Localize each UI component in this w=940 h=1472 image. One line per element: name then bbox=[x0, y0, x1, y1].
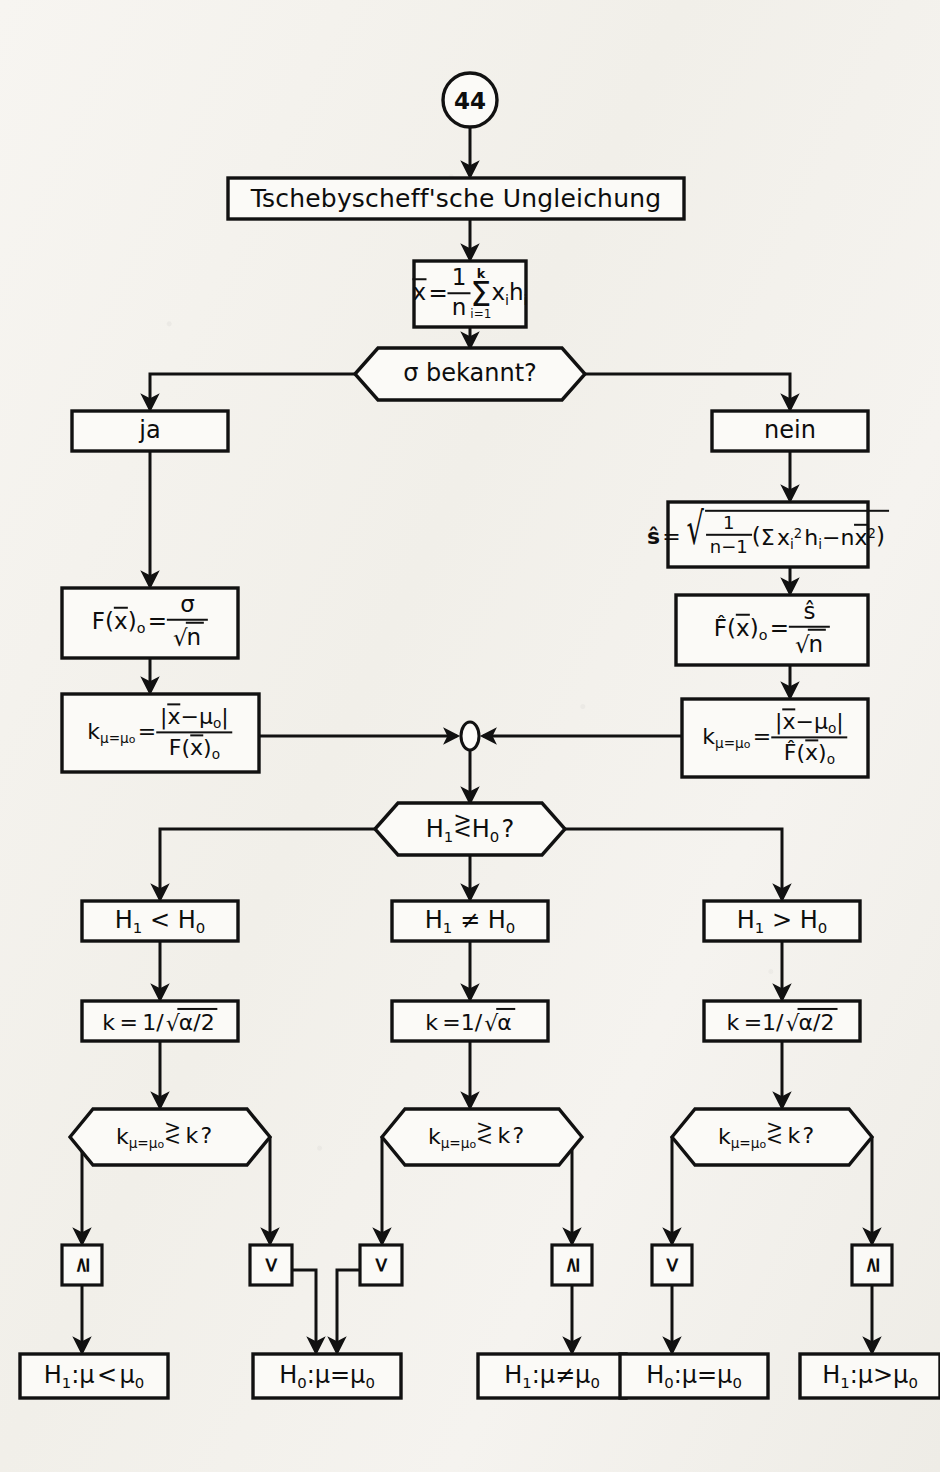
hypothesis-noteq-label: H1 ≠ H0 bbox=[425, 908, 515, 933]
merge-connector[interactable] bbox=[461, 722, 479, 750]
f-left-label: F(x)o =σ√n bbox=[92, 593, 208, 652]
result-label-1: H1:μ < μ0 bbox=[44, 1363, 145, 1388]
edge-sd2-to-result2 bbox=[292, 1270, 316, 1352]
f-right-label: F̂(x)o =ŝ√n bbox=[714, 600, 830, 659]
hypothesis-less-label: H1 < H0 bbox=[115, 908, 205, 933]
small-decision-6-label: ≥ bbox=[861, 1256, 883, 1274]
k-crit-left-label: k = 1/√α/2 bbox=[102, 1008, 217, 1034]
small-decision-2-label: < bbox=[260, 1256, 282, 1274]
result-label-4: H0:μ=μ0 bbox=[646, 1363, 742, 1388]
sigma-decision-label: σ bekannt? bbox=[403, 361, 537, 386]
hypothesis-decision-label: H1><H0 ? bbox=[426, 813, 515, 843]
mean-formula-label: x =1nkΣi=1xihi bbox=[412, 266, 527, 322]
edge-hyp-to-less bbox=[160, 829, 375, 899]
k-crit-mid-label: k =1/√α bbox=[425, 1008, 515, 1034]
result-label-3: H1:μ≠μ0 bbox=[504, 1363, 600, 1388]
hypothesis-greater-label: H1 > H0 bbox=[737, 908, 827, 933]
title-label: Tschebyscheff'sche Ungleichung bbox=[251, 186, 662, 212]
edge-sigma-to-nein bbox=[585, 374, 790, 409]
k-right-label: kμ=μo =|x−μo|F̂(x)o bbox=[702, 709, 847, 766]
small-decision-3-label: < bbox=[370, 1256, 392, 1274]
edge-sigma-to-ja bbox=[150, 374, 355, 409]
small-decision-4-label: ≥ bbox=[561, 1256, 583, 1274]
flowchart-page: 44 Tschebyscheff'sche Ungleichung x =1nk… bbox=[0, 0, 940, 1472]
compare-left-label: kμ=μo>< k ? bbox=[116, 1121, 212, 1148]
small-decision-5-label: < bbox=[661, 1256, 683, 1274]
k-crit-right-label: k =1/√α/2 bbox=[727, 1008, 838, 1034]
edge-sd3-to-result2 bbox=[337, 1270, 360, 1352]
compare-mid-label: kμ=μo>< k ? bbox=[428, 1121, 524, 1148]
small-decision-1-label: ≥ bbox=[71, 1256, 93, 1274]
compare-right-label: kμ=μo>< k ? bbox=[718, 1121, 814, 1148]
result-label-5: H1:μ>μ0 bbox=[822, 1363, 918, 1388]
k-left-label: kμ=μo =|x−μo|F(x)o bbox=[87, 704, 232, 761]
s-hat-formula-label: ŝ =√1n−1(Σ xi2 hi−nx2) bbox=[647, 510, 889, 558]
branch-yes-label: ja bbox=[139, 418, 160, 443]
edge-hyp-to-greater bbox=[565, 829, 782, 899]
start-connector-label: 44 bbox=[454, 89, 486, 113]
result-label-2: H0:μ=μ0 bbox=[279, 1363, 375, 1388]
branch-no-label: nein bbox=[764, 418, 816, 443]
